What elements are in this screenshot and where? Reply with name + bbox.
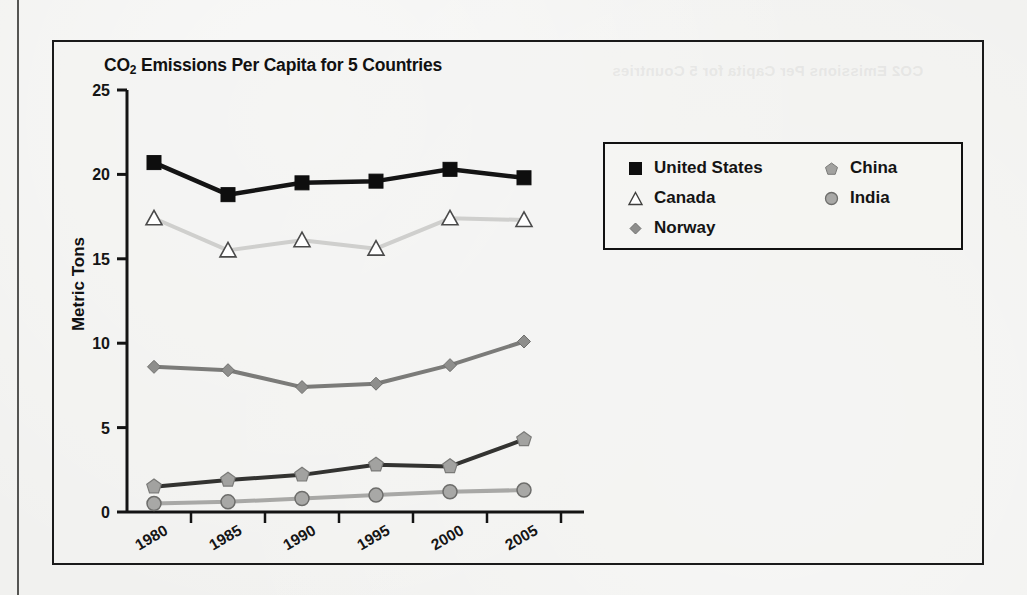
diamond-marker-icon <box>518 335 531 348</box>
y-tick-label: 5 <box>101 420 110 437</box>
legend-label-china: China <box>850 158 897 178</box>
series-line <box>154 439 524 486</box>
legend-item-india[interactable]: India <box>819 183 897 213</box>
series-line <box>154 490 524 504</box>
series-line <box>154 342 524 388</box>
square-marker-icon <box>517 171 531 185</box>
circle-marker-icon <box>517 483 531 497</box>
pentagon-marker-icon <box>221 472 235 486</box>
chart-frame: CO2 Emissions Per Capita for 5 Countries… <box>52 40 984 565</box>
series-india <box>147 483 531 511</box>
y-tick-label: 10 <box>92 335 110 352</box>
pentagon-marker-icon <box>295 467 309 481</box>
legend-item-united-states[interactable]: United States <box>623 153 819 183</box>
triangle-marker-icon <box>146 210 162 225</box>
series-line <box>154 218 524 250</box>
square-marker-icon <box>295 176 309 190</box>
x-tick-label: 2000 <box>428 521 466 553</box>
legend-label-norway: Norway <box>654 218 715 238</box>
legend-item-china[interactable]: China <box>819 153 897 183</box>
diamond-marker-icon <box>623 220 647 237</box>
x-tick-label: 1995 <box>354 521 393 553</box>
legend-label-united-states: United States <box>654 158 763 178</box>
legend-column-right: China India <box>819 153 897 213</box>
x-tick-label: 2005 <box>502 521 541 553</box>
square-marker-icon <box>443 162 457 176</box>
circle-marker-icon <box>295 491 309 505</box>
diamond-marker-icon <box>296 381 309 394</box>
legend-item-canada[interactable]: Canada <box>623 183 819 213</box>
square-marker-icon <box>147 156 161 170</box>
diamond-marker-icon <box>148 360 161 373</box>
pentagon-marker-icon <box>369 457 383 471</box>
x-tick-label: 1980 <box>132 521 170 553</box>
y-tick-label: 15 <box>92 251 110 268</box>
triangle-marker-icon <box>623 190 647 207</box>
pentagon-marker-icon <box>819 160 843 177</box>
line-chart-svg: 0510152025198019851990199520002005 <box>54 42 986 567</box>
diamond-marker-icon <box>370 377 383 390</box>
pentagon-marker-icon <box>443 459 457 473</box>
series-norway <box>148 335 531 394</box>
y-tick-label: 0 <box>101 504 110 521</box>
legend-column-left: United States Canada Norway <box>623 153 819 243</box>
circle-marker-icon <box>443 485 457 499</box>
pentagon-marker-icon <box>517 432 531 446</box>
page-edge-line <box>17 0 19 595</box>
y-tick-label: 25 <box>92 82 110 99</box>
x-tick-label: 1990 <box>280 521 318 553</box>
plot-area: 0510152025198019851990199520002005 <box>54 42 986 567</box>
series-line <box>154 163 524 195</box>
circle-marker-icon <box>147 497 161 511</box>
x-tick-label: 1985 <box>206 521 245 553</box>
y-tick-label: 20 <box>92 166 110 183</box>
pentagon-marker-icon <box>147 479 161 493</box>
circle-marker-icon <box>369 488 383 502</box>
chart-legend: United States Canada Norway China <box>603 142 963 250</box>
series-china <box>147 432 531 493</box>
series-canada <box>146 210 532 257</box>
square-marker-icon <box>369 174 383 188</box>
square-marker-icon <box>623 160 647 177</box>
legend-label-canada: Canada <box>654 188 715 208</box>
diamond-marker-icon <box>444 359 457 372</box>
circle-marker-icon <box>221 495 235 509</box>
circle-marker-icon <box>819 190 843 207</box>
legend-label-india: India <box>850 188 890 208</box>
legend-item-norway[interactable]: Norway <box>623 213 819 243</box>
square-marker-icon <box>221 188 235 202</box>
series-united-states <box>147 156 531 202</box>
diamond-marker-icon <box>222 364 235 377</box>
